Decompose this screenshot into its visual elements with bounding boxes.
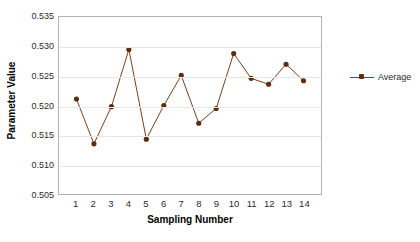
x-tick-label: 13 — [282, 198, 293, 209]
y-axis-tick-labels: 0.5050.5100.5150.5200.5250.5300.535 — [20, 10, 56, 200]
y-tick-label: 0.530 — [31, 41, 54, 51]
gridline — [59, 47, 321, 48]
series-line — [76, 49, 303, 143]
x-axis-title: Sampling Number — [58, 214, 322, 225]
data-point-marker — [196, 121, 201, 126]
y-tick-label: 0.525 — [31, 71, 54, 81]
x-tick-label: 7 — [179, 198, 184, 209]
y-tick-label: 0.535 — [31, 11, 54, 21]
x-tick-label: 1 — [73, 198, 78, 209]
gridline — [59, 77, 321, 78]
x-tick-label: 8 — [196, 198, 201, 209]
x-tick-label: 12 — [264, 198, 275, 209]
x-tick-label: 9 — [214, 198, 219, 209]
x-tick-label: 5 — [143, 198, 148, 209]
y-tick-label: 0.515 — [31, 130, 54, 140]
legend-entry-label: Average — [378, 72, 411, 82]
data-point-marker — [266, 82, 271, 87]
data-point-marker — [74, 96, 79, 101]
gridline — [59, 136, 321, 137]
legend-marker-icon — [350, 72, 374, 82]
legend-dot — [359, 74, 364, 79]
gridline — [59, 107, 321, 108]
data-point-marker — [231, 51, 236, 56]
line-chart: Parameter Value 0.5050.5100.5150.5200.52… — [0, 0, 420, 242]
y-tick-label: 0.510 — [31, 160, 54, 170]
x-tick-label: 4 — [126, 198, 131, 209]
data-point-marker — [144, 137, 149, 142]
y-tick-label: 0.505 — [31, 190, 54, 200]
data-point-marker — [283, 62, 288, 67]
chart-legend: Average — [350, 72, 411, 82]
gridline — [59, 166, 321, 167]
x-axis-tick-labels: 1234567891011121314 — [58, 198, 322, 214]
x-tick-label: 11 — [247, 198, 257, 209]
y-tick-label: 0.520 — [31, 101, 54, 111]
y-axis-title: Parameter Value — [2, 0, 22, 200]
plot-area — [58, 16, 322, 195]
x-tick-label: 3 — [108, 198, 113, 209]
x-tick-label: 6 — [161, 198, 166, 209]
y-axis-title-label: Parameter Value — [7, 61, 18, 139]
series-plot — [59, 17, 321, 194]
x-tick-label: 10 — [229, 198, 240, 209]
data-point-marker — [301, 78, 306, 83]
x-tick-label: 14 — [299, 198, 310, 209]
x-tick-label: 2 — [91, 198, 96, 209]
data-point-marker — [91, 141, 96, 146]
